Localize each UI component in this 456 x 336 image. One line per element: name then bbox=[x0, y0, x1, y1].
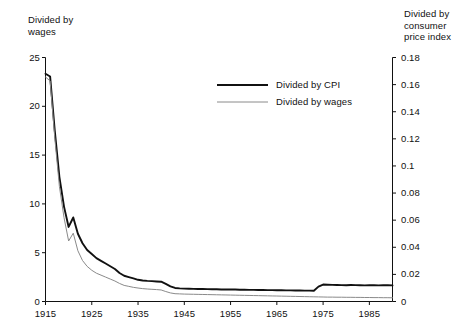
axis-lines bbox=[46, 58, 393, 302]
y2-axis-tick-label: 0.16 bbox=[401, 79, 420, 90]
y2-axis-tick-label: 0.08 bbox=[401, 187, 420, 198]
y-axis-tick-label: 15 bbox=[14, 149, 40, 160]
x-axis-tick-label: 1935 bbox=[118, 308, 158, 319]
y2-axis-tick-label: 0.1 bbox=[401, 160, 415, 171]
y2-axis-tick-label: 0.02 bbox=[401, 268, 420, 279]
x-axis-tick-label: 1985 bbox=[349, 308, 389, 319]
legend-swatches bbox=[217, 85, 268, 102]
y2-axis-tick-label: 0 bbox=[401, 296, 406, 307]
chart-root: Divided by wages Divided by consumer pri… bbox=[0, 0, 456, 336]
plot-area bbox=[0, 0, 456, 336]
x-axis-tick-label: 1955 bbox=[211, 308, 251, 319]
axis-ticks bbox=[42, 58, 396, 306]
y2-axis-tick-label: 0.18 bbox=[401, 52, 420, 63]
y-axis-tick-label: 5 bbox=[14, 247, 40, 258]
x-axis-tick-label: 1975 bbox=[303, 308, 343, 319]
x-axis-tick-label: 1915 bbox=[26, 308, 66, 319]
legend-item-label: Divided by wages bbox=[276, 96, 352, 107]
y2-axis-tick-label: 0.04 bbox=[401, 241, 420, 252]
legend-item-label: Divided by CPI bbox=[276, 79, 340, 90]
y-axis-tick-label: 25 bbox=[14, 52, 40, 63]
y2-axis-tick-label: 0.06 bbox=[401, 214, 420, 225]
x-axis-tick-label: 1945 bbox=[164, 308, 204, 319]
data-series bbox=[46, 74, 393, 298]
y2-axis-tick-label: 0.12 bbox=[401, 133, 420, 144]
y2-axis-tick-label: 0.14 bbox=[401, 106, 420, 117]
y-axis-tick-label: 0 bbox=[14, 296, 40, 307]
y-axis-tick-label: 10 bbox=[14, 198, 40, 209]
x-axis-tick-label: 1925 bbox=[72, 308, 112, 319]
x-axis-tick-label: 1965 bbox=[257, 308, 297, 319]
y-axis-tick-label: 20 bbox=[14, 100, 40, 111]
